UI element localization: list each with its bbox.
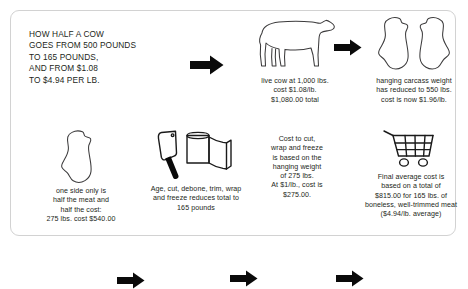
caption-line: hanging carcass weight — [355, 77, 468, 86]
step-hanging-carcass-caption: hanging carcass weight has reduced to 55… — [355, 77, 468, 105]
step-processing-cost: Cost to cut, wrap and freeze is based on… — [251, 129, 343, 241]
caption-line: $1,080.00 total — [239, 96, 351, 105]
step-one-side-caption: one side only is half the meat and half … — [15, 187, 147, 224]
caption-line: half the meat and — [15, 196, 147, 205]
step-hanging-carcass: hanging carcass weight has reduced to 55… — [355, 15, 468, 120]
step-final-cost-caption: Final average cost is based on a total o… — [345, 173, 468, 219]
caption-line: based on a total of — [345, 182, 468, 191]
headline-line-3: TO 165 POUNDS, — [29, 52, 189, 63]
caption-line: ($4.94/lb. average) — [345, 210, 468, 219]
caption-line: 275 lbs. cost $540.00 — [15, 215, 147, 224]
page-title: HOW HALF A COW GOES FROM 500 POUNDS TO 1… — [29, 29, 189, 86]
flow-row-bottom: one side only is half the meat and half … — [11, 124, 455, 237]
caption-line: is based on the — [251, 154, 343, 163]
headline-line-4: AND FROM $1.08 — [29, 63, 189, 74]
caption-line: Age, cut, debone, trim, wrap — [137, 185, 255, 194]
step-processing-cost-caption: Cost to cut, wrap and freeze is based on… — [251, 135, 343, 200]
caption-line: of 275 lbs. — [251, 172, 343, 181]
caption-line: hanging weight — [251, 163, 343, 172]
flow-arrow-icon — [336, 270, 364, 287]
caption-line: $815.00 for 165 lbs. of — [345, 192, 468, 201]
step-processing-caption: Age, cut, debone, trim, wrap and freeze … — [137, 185, 255, 213]
headline-line-1: HOW HALF A COW — [29, 29, 189, 40]
flow-arrow-icon — [230, 270, 258, 287]
carcass-half-icon — [15, 129, 147, 185]
caption-line: wrap and freeze — [251, 144, 343, 153]
caption-line: cost is now $1.96/lb. — [355, 96, 468, 105]
caption-line: Final average cost is — [345, 173, 468, 182]
caption-line: cost $1.08/lb. — [239, 86, 351, 95]
caption-line: $275.00. — [251, 191, 343, 200]
step-live-cow: live cow at 1,000 lbs. cost $1.08/lb. $1… — [239, 15, 351, 120]
step-processing: Age, cut, debone, trim, wrap and freeze … — [137, 129, 255, 241]
flow-arrow-icon — [117, 272, 145, 289]
carcass-halves-icon — [355, 15, 468, 73]
caption-line: one side only is — [15, 187, 147, 196]
caption-line: and freeze reduces total to — [137, 194, 255, 203]
caption-line: live cow at 1,000 lbs. — [239, 77, 351, 86]
step-final-cost: Final average cost is based on a total o… — [345, 129, 468, 241]
caption-line: Cost to cut, — [251, 135, 343, 144]
flow-arrow-icon — [190, 55, 224, 75]
caption-line: has reduced to 550 lbs. — [355, 86, 468, 95]
cleaver-and-butcher-paper-icon — [137, 129, 255, 181]
headline-line-2: GOES FROM 500 POUNDS — [29, 40, 189, 51]
caption-line: half the cost: — [15, 206, 147, 215]
caption-line: boneless, well-trimmed meat — [345, 201, 468, 210]
step-one-side: one side only is half the meat and half … — [15, 129, 147, 241]
flow-row-top: HOW HALF A COW GOES FROM 500 POUNDS TO 1… — [11, 11, 455, 124]
shopping-cart-icon — [345, 129, 468, 171]
infographic-card: HOW HALF A COW GOES FROM 500 POUNDS TO 1… — [10, 10, 456, 236]
step-live-cow-caption: live cow at 1,000 lbs. cost $1.08/lb. $1… — [239, 77, 351, 105]
headline-line-5: TO $4.94 PER LB. — [29, 75, 189, 86]
caption-line: 165 pounds — [137, 204, 255, 213]
caption-line: At $1/lb., cost is — [251, 181, 343, 190]
